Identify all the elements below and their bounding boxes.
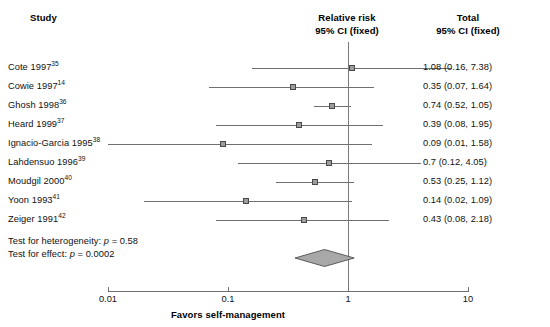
study-reference: 14 <box>58 79 65 86</box>
point-estimate-box <box>349 65 355 71</box>
x-axis-tick <box>468 287 469 292</box>
study-reference: 36 <box>59 98 66 105</box>
effect-estimate-label: 0.53 (0.25, 1.12) <box>423 176 492 186</box>
effect-estimate-label: 0.74 (0.52, 1.05) <box>423 100 492 110</box>
study-reference: 35 <box>51 60 58 67</box>
x-axis-tick-label: 0.01 <box>99 294 117 304</box>
column-header-relative-risk: Relative risk <box>318 12 375 23</box>
study-reference: 37 <box>57 117 64 124</box>
study-reference: 41 <box>53 193 60 200</box>
study-label: Cowie 199714 <box>8 81 65 91</box>
study-name: Ignacio-Garcia 1995 <box>8 138 93 148</box>
effect-estimate-label: 0.7 (0.12, 4.05) <box>423 157 487 167</box>
point-estimate-box <box>326 160 332 166</box>
confidence-interval-line <box>108 144 372 145</box>
column-header-total-ci: 95% CI (fixed) <box>436 25 500 36</box>
column-header-relative-risk-ci: 95% CI (fixed) <box>315 25 379 36</box>
study-name: Heard 1999 <box>8 119 57 129</box>
study-label: Lahdensuo 199639 <box>8 157 85 167</box>
forest-plot-figure: Study Relative risk 95% CI (fixed) Total… <box>0 0 550 327</box>
study-name: Cowie 1997 <box>8 81 58 91</box>
point-estimate-box <box>243 198 249 204</box>
test-heterogeneity: Test for heterogeneity: p = 0.58 <box>8 236 138 246</box>
study-label: Zeiger 199142 <box>8 214 66 224</box>
study-name: Yoon 1993 <box>8 195 53 205</box>
column-header-study: Study <box>30 12 57 23</box>
effect-estimate-label: 1.08 (0.16, 7.38) <box>423 62 492 72</box>
study-name: Ghosh 1998 <box>8 100 59 110</box>
study-label: Heard 199937 <box>8 119 65 129</box>
study-name: Lahdensuo 1996 <box>8 157 78 167</box>
study-label: Yoon 199341 <box>8 195 60 205</box>
study-reference: 38 <box>93 136 100 143</box>
effect-estimate-label: 0.35 (0.07, 1.64) <box>423 81 492 91</box>
x-axis-tick-label: 0.1 <box>222 294 235 304</box>
point-estimate-box <box>290 84 296 90</box>
study-reference: 40 <box>64 174 71 181</box>
x-axis-tick <box>348 287 349 292</box>
point-estimate-box <box>312 179 318 185</box>
study-reference: 39 <box>78 155 85 162</box>
effect-estimate-label: 0.39 (0.08, 1.95) <box>423 119 492 129</box>
x-axis-tick-label: 1 <box>345 294 350 304</box>
effect-estimate-label: 0.14 (0.02, 1.09) <box>423 195 492 205</box>
study-label: Ghosh 199836 <box>8 100 67 110</box>
study-label: Ignacio-Garcia 199538 <box>8 138 100 148</box>
x-axis-line <box>108 291 468 292</box>
study-name: Zeiger 1991 <box>8 214 58 224</box>
summary-diamond <box>294 248 355 272</box>
study-name: Cote 1997 <box>8 62 51 72</box>
point-estimate-box <box>301 217 307 223</box>
effect-estimate-label: 0.09 (0.01, 1.58) <box>423 138 492 148</box>
x-axis-tick <box>228 287 229 292</box>
column-header-total: Total <box>457 12 480 23</box>
x-axis-tick-label: 10 <box>463 294 473 304</box>
point-estimate-box <box>296 122 302 128</box>
point-estimate-box <box>329 103 335 109</box>
x-axis-tick <box>108 287 109 292</box>
x-axis-title: Favors self-management <box>171 309 285 320</box>
study-label: Cote 199735 <box>8 62 59 72</box>
point-estimate-box <box>220 141 226 147</box>
study-name: Moudgil 2000 <box>8 176 64 186</box>
study-label: Moudgil 200040 <box>8 176 72 186</box>
effect-estimate-label: 0.43 (0.08, 2.18) <box>423 214 492 224</box>
study-reference: 42 <box>58 212 65 219</box>
test-effect: Test for effect: p = 0.0002 <box>8 249 114 259</box>
